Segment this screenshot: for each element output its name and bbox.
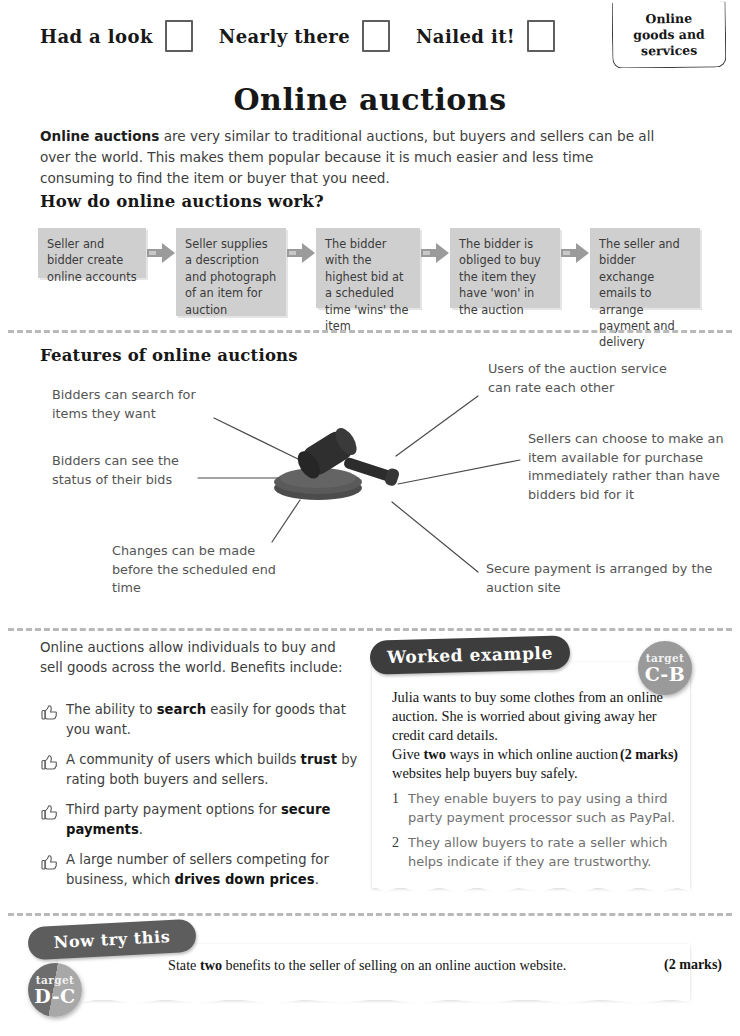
gavel-icon [272, 420, 404, 500]
flow-step-3: The bidder with the highest bid at a sch… [316, 228, 420, 308]
thumbs-up-icon [40, 750, 66, 775]
flow-arrow-icon [286, 228, 316, 278]
intro-paragraph: Online auctions are very similar to trad… [40, 126, 658, 189]
unit-line-2: goods and [633, 26, 705, 42]
target-word: target [36, 975, 74, 986]
flow-step-1: Seller and bidder create online accounts [38, 228, 146, 278]
benefit-text-1: The ability to search easily for goods t… [66, 700, 370, 739]
benefit-text-2: A community of users which builds trust … [66, 750, 370, 789]
unit-line-1: Online [645, 10, 692, 25]
answer-text: They enable buyers to pay using a third … [408, 790, 678, 827]
status-label: Had a look [40, 26, 153, 47]
unit-topic-tab: Online goods and services [612, 1, 727, 68]
worked-example-body: Julia wants to buy some clothes from an … [392, 688, 678, 871]
auction-process-flowchart: Seller and bidder create online accounts… [38, 228, 706, 320]
target-word: target [646, 653, 684, 664]
feature-label-4: Users of the auction service can rate ea… [488, 360, 678, 397]
benefits-list: The ability to search easily for goods t… [40, 700, 370, 900]
feature-label-5: Sellers can choose to make an item avail… [528, 430, 728, 504]
status-checkbox-nearly-there[interactable] [362, 20, 390, 52]
section-divider [8, 628, 732, 631]
worked-example-tab: Worked example [370, 635, 571, 675]
worked-example-tab-label: Worked example [387, 643, 553, 668]
features-mindmap: Bidders can search for items they want B… [0, 360, 740, 618]
thumbs-up-icon [40, 850, 66, 875]
now-try-this-tab-label: Now try this [53, 927, 170, 952]
section-divider [8, 913, 732, 916]
unit-topic-text: Online goods and services [633, 10, 705, 59]
section-divider [8, 330, 732, 333]
feature-label-1: Bidders can search for items they want [52, 386, 212, 423]
flow-step-4: The bidder is obliged to buy the item th… [450, 228, 560, 308]
worked-example-question: (2 marks) Give two ways in which online … [392, 745, 678, 783]
answer-text: They allow buyers to rate a seller which… [408, 834, 678, 871]
status-item-had-a-look[interactable]: Had a look [40, 20, 193, 52]
thumbs-up-icon [40, 800, 66, 825]
how-section-heading: How do online auctions work? [40, 192, 324, 211]
status-label: Nearly there [219, 26, 350, 47]
target-grade-badge-dc: target D-C [28, 963, 82, 1017]
list-item: A large number of sellers competing for … [40, 850, 370, 889]
flow-step-2: Seller supplies a description and photog… [176, 228, 286, 316]
benefits-intro-paragraph: Online auctions allow individuals to buy… [40, 638, 360, 678]
worked-example-answer-1: 1 They enable buyers to pay using a thir… [392, 790, 678, 827]
now-try-this-question: State two benefits to the seller of sell… [168, 957, 668, 974]
flow-arrow-icon [146, 228, 176, 278]
flow-arrow-icon [560, 228, 590, 278]
feature-label-2: Bidders can see the status of their bids [52, 452, 192, 489]
status-item-nailed-it[interactable]: Nailed it! [416, 20, 555, 52]
worked-example-marks: (2 marks) [620, 745, 678, 764]
list-item: A community of users which builds trust … [40, 750, 370, 789]
flow-step-5: The seller and bidder exchange emails to… [590, 228, 700, 308]
target-grade-badge-cb: target C-B [638, 641, 692, 695]
status-label: Nailed it! [416, 26, 515, 47]
list-item: The ability to search easily for goods t… [40, 700, 370, 739]
page-title: Online auctions [0, 82, 740, 117]
answer-number: 1 [392, 790, 408, 827]
worked-example-answer-2: 2 They allow buyers to rate a seller whi… [392, 834, 678, 871]
list-item: Third party payment options for secure p… [40, 800, 370, 839]
target-grade: C-B [645, 664, 686, 684]
status-checkbox-had-a-look[interactable] [165, 20, 193, 52]
feature-label-6: Secure payment is arranged by the auctio… [486, 560, 716, 597]
answer-number: 2 [392, 834, 408, 871]
status-checkbox-nailed-it[interactable] [527, 20, 555, 52]
benefit-text-3: Third party payment options for secure p… [66, 800, 370, 839]
unit-line-3: services [641, 42, 697, 58]
flow-arrow-icon [420, 228, 450, 278]
feature-label-3: Changes can be made before the scheduled… [112, 542, 282, 598]
status-item-nearly-there[interactable]: Nearly there [219, 20, 390, 52]
worked-example-scenario: Julia wants to buy some clothes from an … [392, 688, 678, 745]
benefit-text-4: A large number of sellers competing for … [66, 850, 370, 889]
thumbs-up-icon [40, 700, 66, 725]
target-grade: D-C [34, 986, 75, 1006]
now-try-this-marks: (2 marks) [664, 957, 722, 973]
intro-lead-term: Online auctions [40, 128, 159, 144]
